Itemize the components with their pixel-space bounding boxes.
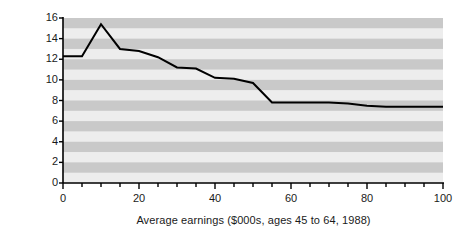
x-tick-label: 40 — [195, 192, 235, 204]
plot-band — [63, 131, 443, 142]
x-tick-label: 20 — [119, 192, 159, 204]
plot-band — [63, 162, 443, 173]
plot-band — [63, 152, 443, 163]
y-tick-label: 12 — [24, 52, 58, 64]
x-axis — [63, 183, 443, 189]
plot-band — [63, 18, 443, 29]
plot-band — [63, 49, 443, 60]
y-tick-label: 6 — [24, 114, 58, 126]
plot-band — [63, 111, 443, 122]
plot-band — [63, 121, 443, 132]
y-tick-label: 16 — [24, 11, 58, 23]
plot-band — [63, 80, 443, 91]
x-axis-label: Average earnings ($000s, ages 45 to 64, … — [63, 210, 444, 228]
x-tick-label: 0 — [43, 192, 83, 204]
mortality-earnings-line-chart: 0246810121416 020406080100 Mortality rat… — [0, 0, 474, 233]
x-tick-label: 100 — [423, 192, 463, 204]
x-axis-label-text: Average earnings ($000s, ages 45 to 64, … — [136, 214, 370, 226]
y-tick-label: 10 — [24, 73, 58, 85]
y-tick-label: 8 — [24, 94, 58, 106]
x-tick-label: 60 — [271, 192, 311, 204]
plot-banding — [63, 18, 443, 183]
plot-band — [63, 59, 443, 70]
y-tick-label: 4 — [24, 135, 58, 147]
y-tick-label: 2 — [24, 155, 58, 167]
plot-band — [63, 70, 443, 81]
x-tick-label: 80 — [347, 192, 387, 204]
plot-band — [63, 28, 443, 39]
plot-band — [63, 142, 443, 153]
y-tick-label: 14 — [24, 32, 58, 44]
plot-band — [63, 173, 443, 184]
plot-band — [63, 90, 443, 101]
y-tick-label: 0 — [24, 176, 58, 188]
